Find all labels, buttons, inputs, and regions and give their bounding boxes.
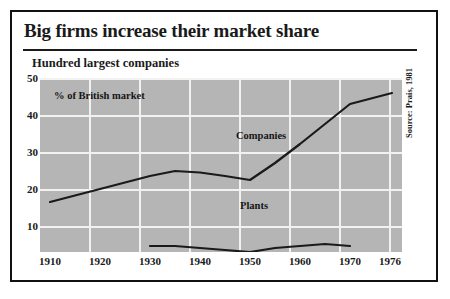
chart-card: Big firms increase their market share Hu… — [10, 10, 438, 282]
title-divider — [23, 49, 417, 51]
x-tick-1960: 1960 — [278, 255, 322, 267]
x-tick-1910: 1910 — [28, 255, 72, 267]
x-tick-1970: 1970 — [328, 255, 372, 267]
x-tick-1930: 1930 — [128, 255, 172, 267]
y-tick-20: 20 — [16, 183, 38, 195]
page-title: Big firms increase their market share — [24, 20, 319, 42]
y-axis: 50 40 30 20 10 — [12, 78, 38, 252]
series-line-plants — [150, 244, 350, 252]
y-tick-30: 30 — [16, 146, 38, 158]
series-lines — [40, 78, 402, 252]
y-tick-40: 40 — [16, 109, 38, 121]
series-label-plants: Plants — [240, 200, 268, 211]
y-tick-10: 10 — [16, 220, 38, 232]
series-label-companies: Companies — [236, 130, 286, 141]
series-line-companies — [50, 93, 392, 202]
x-tick-1950: 1950 — [228, 255, 272, 267]
chart-subtitle: Hundred largest companies — [32, 56, 179, 71]
source-note: Source: Prais, 1981 — [404, 68, 414, 138]
x-axis: 1910 1920 1930 1940 1950 1960 1970 1976 — [40, 255, 402, 273]
plot-area: % of British market Companies Plants — [40, 78, 402, 252]
x-tick-1976: 1976 — [368, 255, 412, 267]
axis-unit-label: % of British market — [54, 90, 145, 101]
x-tick-1920: 1920 — [78, 255, 122, 267]
x-tick-1940: 1940 — [178, 255, 222, 267]
y-tick-50: 50 — [16, 72, 38, 84]
